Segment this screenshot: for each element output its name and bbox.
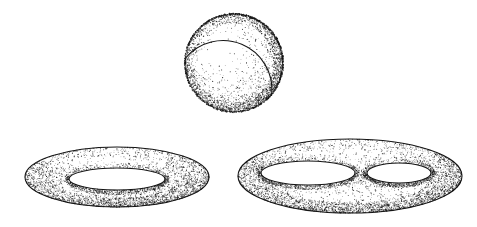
surfaces-illustration	[0, 0, 477, 227]
canvas-background	[0, 0, 477, 227]
